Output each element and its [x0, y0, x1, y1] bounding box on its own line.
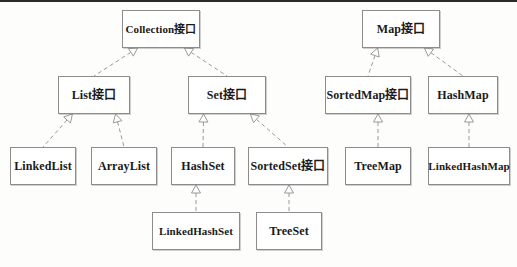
- class-box-sortedset[interactable]: SortedSet接口: [248, 147, 328, 185]
- class-box-hashmap[interactable]: HashMap: [428, 76, 498, 114]
- hollow-triangle-arrowhead-icon: [465, 114, 474, 122]
- hollow-triangle-arrowhead-icon: [374, 114, 383, 122]
- class-box-label: LinkedHashSet: [159, 226, 233, 237]
- edge-line: [431, 53, 463, 76]
- generalization-edge-linkedhashmap-to-hashmap: [465, 114, 474, 147]
- hollow-triangle-arrowhead-icon: [285, 185, 294, 193]
- generalization-edge-set-to-collection: [184, 48, 227, 76]
- class-box-label: LinkedHashMap: [428, 161, 509, 172]
- class-box-linkedhashset[interactable]: LinkedHashSet: [152, 212, 240, 250]
- edge-line: [43, 120, 67, 147]
- class-box-label: HashMap: [437, 89, 488, 101]
- class-box-label: Map接口: [377, 23, 426, 35]
- hollow-triangle-arrowhead-icon: [424, 48, 433, 56]
- edge-line: [368, 56, 375, 76]
- class-box-set[interactable]: Set接口: [188, 76, 266, 114]
- class-box-label: List接口: [72, 89, 117, 101]
- class-box-label: TreeMap: [354, 160, 402, 172]
- class-box-list[interactable]: List接口: [58, 76, 130, 114]
- class-box-label: Set接口: [207, 89, 248, 101]
- hollow-triangle-arrowhead-icon: [192, 185, 201, 193]
- class-box-map[interactable]: Map接口: [362, 10, 440, 48]
- generalization-edge-sortedset-to-set: [250, 114, 288, 147]
- class-box-hashset[interactable]: HashSet: [171, 147, 235, 185]
- class-box-label: ArrayList: [98, 160, 150, 172]
- class-box-treemap[interactable]: TreeMap: [345, 147, 411, 185]
- class-box-label: SortedSet接口: [250, 160, 325, 172]
- edge-line: [118, 122, 124, 147]
- hollow-triangle-arrowhead-icon: [184, 48, 193, 56]
- class-box-label: SortedMap接口: [326, 89, 409, 101]
- class-box-treeset[interactable]: TreeSet: [256, 212, 322, 250]
- class-box-arraylist[interactable]: ArrayList: [91, 147, 157, 185]
- class-box-label: HashSet: [181, 160, 224, 172]
- generalization-edge-treemap-to-sortedmap: [374, 114, 383, 147]
- generalization-edge-hashmap-to-map: [424, 48, 463, 76]
- edge-line: [94, 52, 131, 76]
- class-box-linkedhashmap[interactable]: LinkedHashMap: [428, 147, 510, 185]
- uml-class-diagram: Collection接口Map接口List接口Set接口SortedMap接口H…: [0, 0, 517, 267]
- generalization-edge-linkedhashset-to-hashset: [192, 185, 201, 212]
- generalization-edge-linkedlist-to-list: [43, 114, 72, 147]
- class-box-label: LinkedList: [14, 160, 72, 172]
- class-box-collection[interactable]: Collection接口: [122, 10, 200, 48]
- class-box-linkedlist[interactable]: LinkedList: [10, 147, 76, 185]
- generalization-edge-list-to-collection: [94, 48, 138, 76]
- generalization-edge-hashset-to-set: [199, 114, 208, 147]
- generalization-edge-treeset-to-sortedset: [285, 185, 294, 212]
- class-box-label: TreeSet: [269, 225, 309, 237]
- hollow-triangle-arrowhead-icon: [128, 48, 137, 56]
- class-box-label: Collection接口: [126, 24, 197, 35]
- hollow-triangle-arrowhead-icon: [113, 114, 122, 123]
- generalization-edge-sortedmap-to-map: [368, 48, 379, 76]
- edge-line: [256, 119, 288, 147]
- generalization-edge-arraylist-to-list: [113, 114, 124, 147]
- hollow-triangle-arrowhead-icon: [371, 48, 380, 57]
- class-box-sortedmap[interactable]: SortedMap接口: [325, 76, 411, 114]
- edge-line: [191, 52, 227, 76]
- hollow-triangle-arrowhead-icon: [199, 114, 208, 122]
